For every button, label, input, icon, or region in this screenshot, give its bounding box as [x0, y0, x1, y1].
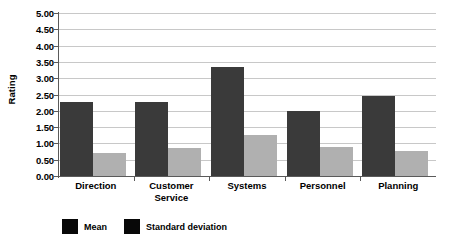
- x-axis-category-label-line: Planning: [360, 180, 436, 192]
- legend-swatch: [124, 219, 140, 234]
- y-axis-tick-label: 3.50: [36, 56, 54, 67]
- bar-mean: [287, 111, 320, 176]
- x-axis-category-label-line: Service: [134, 192, 210, 204]
- y-axis-tick: [54, 111, 59, 112]
- legend-entry[interactable]: Standard deviation: [124, 219, 227, 234]
- y-axis-tick: [54, 176, 59, 177]
- x-axis-category-labels: DirectionCustomerServiceSystemsPersonnel…: [58, 180, 436, 212]
- bar-mean: [211, 67, 244, 176]
- y-axis-tick-label: 0.50: [36, 154, 54, 165]
- bar-mean: [60, 102, 93, 176]
- y-axis-tick: [54, 78, 59, 79]
- x-axis-tick: [209, 176, 210, 181]
- x-axis-category-label: Direction: [58, 180, 134, 192]
- y-axis-tick-labels: 0.000.501.001.502.002.503.003.504.004.50…: [22, 7, 56, 181]
- y-axis-tick: [54, 62, 59, 63]
- y-axis-tick: [54, 143, 59, 144]
- y-axis-tick-label: 4.00: [36, 40, 54, 51]
- y-axis-tick: [54, 13, 59, 14]
- bar-standard-deviation: [395, 151, 428, 176]
- bar-mean: [362, 96, 395, 176]
- bar-standard-deviation: [93, 153, 126, 176]
- bar-standard-deviation: [244, 135, 277, 176]
- bar-standard-deviation: [168, 148, 201, 176]
- y-axis-tick: [54, 160, 59, 161]
- y-axis-tick-label: 2.00: [36, 105, 54, 116]
- legend-label: Standard deviation: [146, 222, 227, 232]
- x-axis-tick: [360, 176, 361, 181]
- y-axis-tick-label: 1.00: [36, 138, 54, 149]
- x-axis-category-label: Personnel: [285, 180, 361, 192]
- chart-legend: MeanStandard deviation: [62, 219, 227, 234]
- x-axis-category-label-line: Customer: [134, 180, 210, 192]
- x-axis-category-label: Planning: [360, 180, 436, 192]
- x-axis-category-label-line: Direction: [58, 180, 134, 192]
- bar-standard-deviation: [320, 147, 353, 176]
- y-axis-tick-label: 0.00: [36, 171, 54, 182]
- legend-label: Mean: [84, 222, 107, 232]
- bar-chart: Rating 0.000.501.001.502.002.503.003.504…: [0, 0, 449, 248]
- y-axis-tick-label: 4.50: [36, 24, 54, 35]
- bars-layer: [58, 13, 436, 176]
- y-axis-tick-label: 5.00: [36, 8, 54, 19]
- y-axis-tick: [54, 127, 59, 128]
- x-axis-category-label: Systems: [209, 180, 285, 192]
- x-axis-tick: [285, 176, 286, 181]
- x-axis-category-label-line: Personnel: [285, 180, 361, 192]
- legend-swatch: [62, 219, 78, 234]
- y-axis-title: Rating: [0, 0, 22, 178]
- legend-entry[interactable]: Mean: [62, 219, 107, 234]
- y-axis-tick: [54, 46, 59, 47]
- y-axis-tick-label: 3.00: [36, 73, 54, 84]
- x-axis-line: [58, 176, 436, 177]
- bar-mean: [135, 102, 168, 176]
- y-axis-tick: [54, 29, 59, 30]
- x-axis-category-label-line: Systems: [209, 180, 285, 192]
- y-axis-tick-label: 2.50: [36, 89, 54, 100]
- x-axis-category-label: CustomerService: [134, 180, 210, 203]
- x-axis-tick: [134, 176, 135, 181]
- y-axis-tick: [54, 95, 59, 96]
- y-axis-title-label: Rating: [6, 74, 17, 104]
- y-axis-tick-label: 1.50: [36, 122, 54, 133]
